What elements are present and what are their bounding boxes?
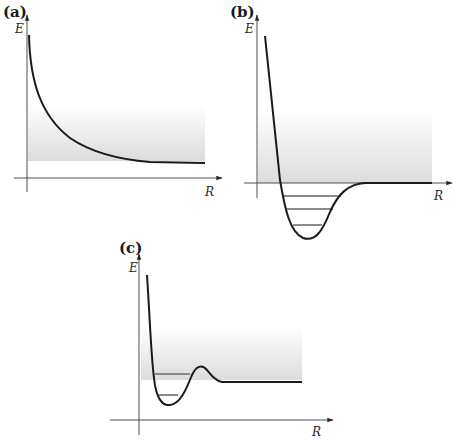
panel-b-y-axis-label: E: [244, 22, 254, 36]
panel-b-label: (b): [230, 3, 255, 21]
panel-b-x-axis-label: R: [433, 189, 443, 203]
panel-c: (c) E R: [110, 239, 333, 439]
panel-b: (b) E R: [230, 3, 452, 239]
panel-a-x-axis-label: R: [204, 185, 214, 199]
panel-a-label: (a): [3, 3, 27, 21]
panel-a-continuum-band: [28, 105, 205, 161]
panel-a: (a) E R: [3, 3, 222, 199]
panel-c-x-axis-label: R: [311, 425, 321, 439]
panel-c-continuum-band: [141, 327, 302, 380]
panel-a-y-axis-label: E: [14, 22, 24, 36]
panel-b-continuum-band: [258, 110, 432, 183]
panel-c-y-axis-label: E: [128, 261, 138, 275]
panel-c-label: (c): [119, 239, 142, 257]
potential-energy-figure: (a) E R (b) E R (c) E R: [0, 0, 453, 440]
